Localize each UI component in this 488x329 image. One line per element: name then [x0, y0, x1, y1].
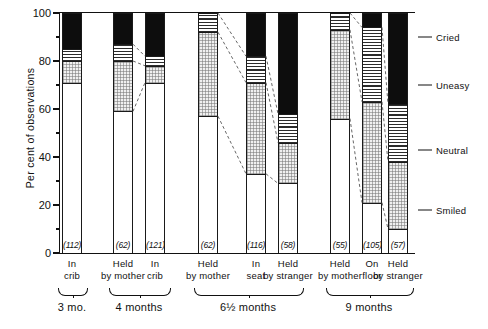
stacked-bar[interactable]: (112) [62, 13, 82, 253]
bar-segment-neutral [63, 61, 81, 83]
x-axis-label: Heldby mother [182, 258, 234, 281]
connector-line [218, 116, 246, 174]
bar-segment-uneasy [363, 27, 381, 101]
sample-size-label: (112) [63, 240, 81, 250]
bar-segment-neutral [114, 61, 132, 111]
y-tick-minor [56, 36, 60, 37]
stacked-bar[interactable]: (58) [278, 13, 298, 253]
bar-segment-uneasy [146, 56, 164, 66]
connector-line [266, 174, 278, 184]
y-tick-major [53, 108, 60, 109]
legend-label: Cried [436, 32, 460, 43]
y-tick-minor [56, 228, 60, 229]
bar-segment-uneasy [199, 13, 217, 32]
stacked-bar[interactable]: (116) [246, 13, 266, 253]
bar-segment-smiled [331, 119, 349, 253]
bar-segment-uneasy [389, 104, 407, 162]
bar-segment-smiled [146, 83, 164, 253]
connector-line [133, 44, 145, 56]
bar-segment-uneasy [331, 13, 349, 30]
legend-item-uneasy: Uneasy [418, 80, 469, 91]
bar-segment-uneasy [63, 49, 81, 61]
y-axis-title: Per cent of observations [24, 28, 36, 228]
connector-line [133, 61, 145, 66]
legend-label: Uneasy [436, 80, 469, 91]
connector-line [266, 83, 278, 143]
bar-segment-neutral [146, 66, 164, 83]
x-axis-label: Incrib [129, 258, 181, 281]
sample-size-label: (58) [279, 240, 297, 250]
bar-segment-smiled [199, 116, 217, 253]
y-tick-label: 40 [39, 151, 51, 163]
connector-line [218, 13, 246, 56]
connector-line [350, 119, 362, 203]
sample-size-label: (116) [247, 240, 265, 250]
y-tick-major [53, 252, 60, 253]
bar-segment-uneasy [279, 114, 297, 143]
group-label: 9 months [324, 301, 414, 313]
y-tick-label: 80 [39, 55, 51, 67]
bar-segment-neutral [247, 83, 265, 174]
bar-segment-neutral [331, 30, 349, 119]
bar-segment-uneasy [247, 56, 265, 82]
bar-segment-smiled [114, 111, 132, 253]
connector-line [133, 83, 145, 112]
group-label: 4 months [94, 301, 184, 313]
legend-item-cried: Cried [418, 32, 460, 43]
bar-segment-neutral [389, 162, 407, 229]
bar-segment-cried [247, 13, 265, 56]
legend-label: Neutral [436, 144, 468, 155]
plot-area: 020406080100 (112)(62)(121)(62)(116)(58)… [60, 13, 415, 253]
group-brace [58, 288, 88, 296]
bar-segment-uneasy [114, 44, 132, 61]
y-tick-major [53, 12, 60, 13]
bar-segment-neutral [363, 102, 381, 203]
connector-line [350, 13, 362, 27]
x-axis-labels: IncribHeldby motherIncribHeldby motherIn… [60, 258, 415, 292]
y-tick-minor [56, 84, 60, 85]
group-label: 6½ months [203, 301, 293, 313]
y-tick-major [53, 60, 60, 61]
x-axis-group-labels: 3 mo.4 months6½ months9 months [60, 288, 415, 328]
y-tick-label: 20 [39, 199, 51, 211]
x-axis-label: Heldby stranger [372, 258, 424, 281]
y-tick-label: 60 [39, 103, 51, 115]
bar-segment-cried [114, 13, 132, 44]
connector-line [350, 30, 362, 102]
sample-size-label: (105) [363, 240, 381, 250]
sample-size-label: (55) [331, 240, 349, 250]
y-tick-label: 100 [33, 7, 51, 19]
x-axis-label: Heldby stranger [262, 258, 314, 281]
y-tick-minor [56, 132, 60, 133]
stacked-bar[interactable]: (62) [113, 13, 133, 253]
y-tick-major [53, 156, 60, 157]
legend-leader-line [418, 84, 432, 85]
bar-segment-smiled [63, 83, 81, 253]
legend-label: Smiled [436, 204, 466, 215]
stacked-bar[interactable]: (57) [388, 13, 408, 253]
y-tick-minor [56, 180, 60, 181]
stacked-bar[interactable]: (55) [330, 13, 350, 253]
sample-size-label: (62) [114, 240, 132, 250]
stacked-bar[interactable]: (105) [362, 13, 382, 253]
legend-leader-line [418, 36, 432, 37]
bar-segment-cried [63, 13, 81, 49]
legend-item-smiled: Smiled [418, 204, 466, 215]
sample-size-label: (57) [389, 240, 407, 250]
bar-segment-neutral [279, 143, 297, 184]
chart-root: Per cent of observations 020406080100 (1… [0, 0, 488, 329]
y-tick-major [53, 204, 60, 205]
sample-size-label: (121) [146, 240, 164, 250]
stacked-bar[interactable]: (62) [198, 13, 218, 253]
stacked-bar[interactable]: (121) [145, 13, 165, 253]
sample-size-label: (62) [199, 240, 217, 250]
legend-leader-line [418, 209, 432, 210]
chart-legend: CriedUneasyNeutralSmiled [418, 0, 488, 329]
legend-leader-line [418, 149, 432, 150]
x-axis-label: Incrib [46, 258, 98, 281]
legend-item-neutral: Neutral [418, 144, 468, 155]
connector-line [218, 32, 246, 82]
group-brace [109, 288, 171, 296]
bar-segment-neutral [199, 32, 217, 116]
group-brace [194, 288, 304, 296]
